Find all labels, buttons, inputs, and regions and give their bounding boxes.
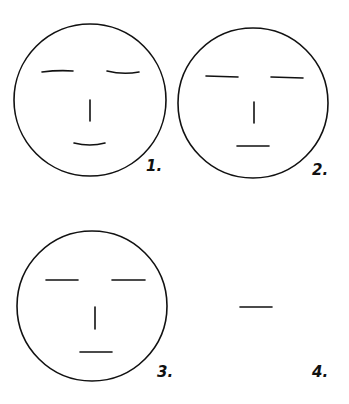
face-outline-2 <box>178 28 328 178</box>
panel-label-2: 2. <box>312 161 328 179</box>
face-outline-3 <box>17 231 167 381</box>
panel-3 <box>17 231 167 381</box>
left-eye-2 <box>206 76 238 77</box>
mouth-1 <box>74 143 105 145</box>
panel-2 <box>178 28 328 178</box>
panel-label-4: 4. <box>311 363 328 381</box>
panel-label-1: 1. <box>146 157 162 175</box>
panel-1 <box>14 24 166 176</box>
left-eye-1 <box>42 71 73 72</box>
panel-label-3: 3. <box>157 363 173 381</box>
right-eye-2 <box>271 77 303 78</box>
faces-diagram: 1. 2. 3. 4. <box>0 0 349 404</box>
right-eye-1 <box>107 71 139 73</box>
